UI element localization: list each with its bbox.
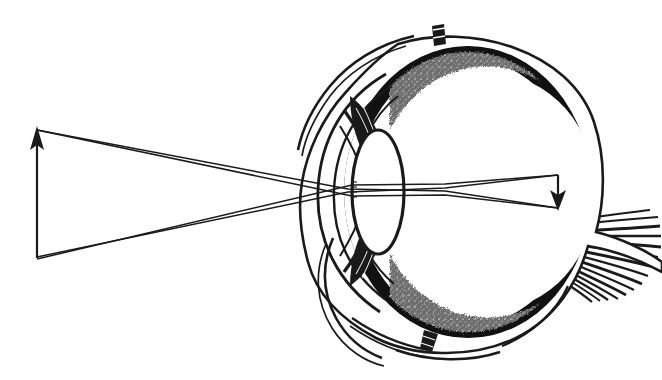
superior-rectus-muscle (432, 24, 446, 46)
eye-ray-diagram-figure: Ray diagram of image formation in the hu… (0, 0, 662, 380)
eye-diagram-canvas (0, 0, 662, 380)
